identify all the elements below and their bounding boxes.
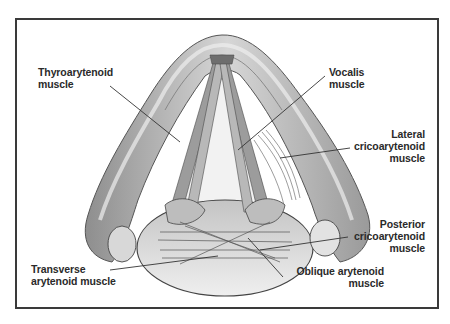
label-thyroarytenoid-muscle: Thyroarytenoid muscle <box>38 66 113 90</box>
right-thyroid-horn <box>310 220 340 256</box>
label-vocalis-muscle: Vocalis muscle <box>329 66 365 90</box>
label-transverse-arytenoid-muscle: Transverse arytenoid muscle <box>31 263 116 287</box>
left-thyroid-horn <box>108 226 136 262</box>
label-lateral-cricoarytenoid-muscle: Lateral cricoarytenoid muscle <box>345 128 425 164</box>
figure: Thyroarytenoid muscle Vocalis muscle Lat… <box>0 0 450 324</box>
label-posterior-cricoarytenoid-muscle: Posterior cricoarytenoid muscle <box>345 218 425 254</box>
label-oblique-arytenoid-muscle: Oblique arytenoid muscle <box>284 265 384 289</box>
